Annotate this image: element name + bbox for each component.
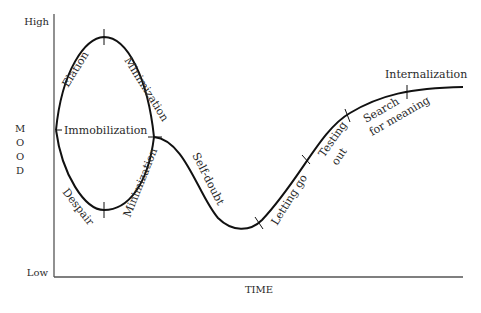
label-minimization-upper: Minimization	[121, 55, 171, 124]
y-high-label: High	[24, 16, 49, 27]
y-title-m: M	[15, 123, 25, 134]
transition-curve-diagram: High Low M O O D TIME Elation Minimizati…	[0, 0, 481, 313]
label-internalization: Internalization	[385, 68, 467, 81]
label-letting-go: Letting go	[269, 172, 311, 228]
y-title-d: D	[16, 165, 24, 176]
label-minimization-lower: Minimization	[121, 146, 161, 219]
y-title-o1: O	[16, 137, 24, 148]
y-low-label: Low	[27, 267, 49, 278]
x-title: TIME	[245, 284, 273, 295]
label-immobilization: Immobilization	[64, 124, 147, 137]
y-title-o2: O	[16, 151, 24, 162]
diagram-canvas: High Low M O O D TIME Elation Minimizati…	[0, 0, 481, 313]
label-elation: Elation	[60, 49, 92, 90]
